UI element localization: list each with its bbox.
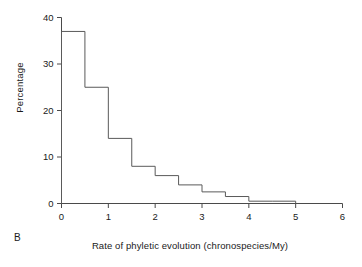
tick-labels-group: 0102030400123456: [43, 12, 345, 222]
y-tick-label-10: 10: [43, 151, 54, 162]
x-tick-label-2: 2: [153, 211, 158, 222]
y-axis-label: Percentage: [14, 43, 25, 133]
x-tick-label-5: 5: [293, 211, 298, 222]
histogram-step-outline: [62, 31, 296, 203]
x-tick-label-0: 0: [59, 211, 64, 222]
x-tick-label-4: 4: [246, 211, 251, 222]
y-tick-label-20: 20: [43, 105, 54, 116]
x-tick-label-3: 3: [199, 211, 204, 222]
panel-label: B: [14, 232, 21, 243]
y-tick-label-30: 30: [43, 58, 54, 69]
chart-figure: 0102030400123456 Percentage Rate of phyl…: [0, 0, 362, 267]
y-tick-label-0: 0: [48, 198, 53, 209]
axes-group: [62, 18, 343, 204]
ticks-group: [57, 18, 343, 209]
step-histogram-plot: 0102030400123456: [0, 0, 362, 267]
x-tick-label-6: 6: [340, 211, 345, 222]
data-series-step-outline: [62, 31, 296, 203]
x-tick-label-1: 1: [106, 211, 111, 222]
x-axis-label: Rate of phyletic evolution (chronospecie…: [40, 240, 340, 251]
y-tick-label-40: 40: [43, 12, 54, 23]
